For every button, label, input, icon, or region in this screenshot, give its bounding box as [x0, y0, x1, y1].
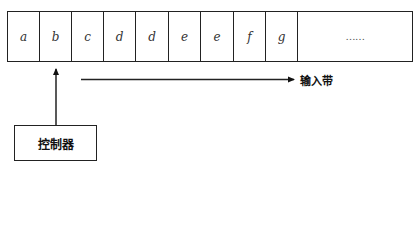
controller-box: 控制器	[14, 125, 97, 161]
controller-label: 控制器	[38, 135, 74, 152]
input-tape-label: 输入带	[300, 72, 333, 88]
